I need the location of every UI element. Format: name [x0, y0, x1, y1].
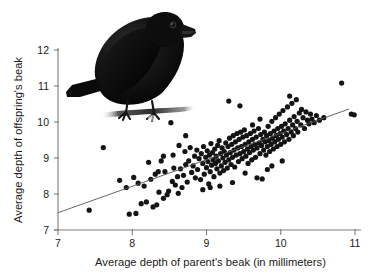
data-point: [285, 104, 290, 109]
data-point: [176, 143, 181, 148]
data-point: [283, 121, 288, 126]
data-point: [166, 189, 171, 194]
data-point: [299, 107, 304, 112]
data-point: [352, 112, 357, 117]
y-tick-label: 12: [37, 44, 49, 56]
data-point: [168, 120, 173, 125]
data-point: [280, 108, 285, 113]
y-tick-label: 7: [43, 224, 49, 236]
data-point: [339, 81, 344, 86]
data-point: [179, 185, 184, 190]
data-point: [280, 135, 285, 140]
data-point: [300, 115, 305, 120]
eye-highlight: [171, 23, 172, 24]
axis-labels: 7891011127891011Average depth of parent'…: [12, 44, 361, 268]
branch: [101, 106, 196, 118]
data-point: [117, 178, 122, 183]
x-tick-label: 9: [204, 237, 210, 249]
data-point: [295, 129, 300, 134]
data-point: [243, 171, 248, 176]
trend-line: [58, 109, 349, 213]
data-point: [289, 101, 294, 106]
data-point: [282, 139, 287, 144]
x-axis-title: Average depth of parent's beak (in milli…: [95, 256, 326, 268]
data-point: [176, 191, 181, 196]
data-point: [159, 158, 164, 163]
data-point: [101, 145, 106, 150]
data-point: [291, 133, 296, 138]
data-point: [254, 145, 259, 150]
data-point: [214, 166, 219, 171]
data-point: [280, 158, 285, 163]
data-point: [144, 199, 149, 204]
data-point: [314, 113, 319, 118]
data-point: [162, 169, 167, 174]
regression-line: [58, 109, 349, 213]
data-point: [199, 151, 204, 156]
data-point: [242, 127, 247, 132]
data-point: [127, 212, 132, 217]
data-point: [146, 160, 151, 165]
data-point: [182, 149, 187, 154]
data-point: [215, 143, 220, 148]
y-tick-label: 10: [37, 116, 49, 128]
data-point: [303, 109, 308, 114]
data-point: [266, 124, 271, 129]
data-point: [186, 158, 191, 163]
data-point: [154, 202, 159, 207]
data-point: [170, 153, 175, 158]
data-point: [269, 163, 274, 168]
y-tick-label: 8: [43, 188, 49, 200]
data-point: [175, 174, 180, 179]
data-point: [173, 182, 178, 187]
data-point: [230, 180, 235, 185]
data-point: [133, 211, 138, 216]
bird-head: [146, 12, 184, 47]
data-point: [237, 103, 242, 108]
data-point: [131, 175, 136, 180]
data-point: [202, 172, 207, 177]
foot-highlight: [148, 115, 156, 121]
data-point: [181, 173, 186, 178]
data-point: [208, 141, 213, 146]
data-point: [226, 99, 231, 104]
data-point: [208, 185, 213, 190]
data-point: [156, 169, 161, 174]
scatter-plot: 7891011127891011Average depth of parent'…: [0, 0, 373, 278]
x-tick-label: 11: [350, 237, 361, 249]
data-point: [286, 137, 291, 142]
x-tick-label: 10: [275, 237, 287, 249]
y-tick-label: 9: [43, 152, 49, 164]
data-point: [251, 128, 256, 133]
data-point: [287, 93, 292, 98]
data-point: [302, 126, 307, 131]
y-tick-label: 11: [38, 80, 49, 92]
data-point: [254, 135, 259, 140]
darwins-finch-illustration: [66, 12, 196, 121]
data-point: [161, 196, 166, 201]
data-point: [142, 183, 147, 188]
data-point: [250, 122, 255, 127]
x-tick-label: 7: [55, 237, 61, 249]
data-point: [201, 144, 206, 149]
data-point: [204, 165, 209, 170]
data-point: [260, 176, 265, 181]
data-point: [87, 208, 92, 213]
data-point: [183, 133, 188, 138]
data-point: [156, 190, 161, 195]
data-point: [254, 175, 259, 180]
data-point: [198, 177, 203, 182]
data-point: [287, 118, 292, 123]
data-point: [294, 97, 299, 102]
data-point: [217, 138, 222, 143]
data-point: [265, 167, 270, 172]
data-point: [196, 156, 201, 161]
data-point: [185, 180, 190, 185]
data-point: [171, 165, 176, 170]
data-point: [161, 154, 166, 159]
data-point: [256, 126, 261, 131]
data-point: [200, 187, 205, 192]
finch-heritability-figure: 7891011127891011Average depth of parent'…: [0, 0, 373, 278]
data-point: [257, 117, 262, 122]
data-point: [188, 145, 193, 150]
